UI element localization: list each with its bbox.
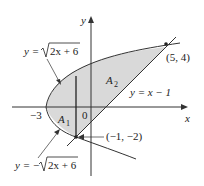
x-axis-label: x — [184, 112, 190, 124]
line-label: y = x − 1 — [129, 86, 171, 98]
svg-text:2x + 6: 2x + 6 — [50, 45, 79, 57]
svg-text:A: A — [105, 74, 113, 86]
point-5-4-label: (5, 4) — [166, 51, 190, 64]
y-axis-label: y — [80, 14, 86, 26]
svg-text:2: 2 — [114, 80, 118, 89]
point-neg1-neg2-label: (−1, −2) — [106, 130, 143, 143]
svg-text:2x + 6: 2x + 6 — [48, 159, 77, 171]
svg-text:y = −: y = − — [14, 159, 40, 171]
svg-text:1: 1 — [66, 119, 70, 128]
y-axis-arrow-icon — [88, 16, 94, 23]
x-tick-neg3-label: −3 — [30, 109, 42, 121]
svg-text:y =: y = — [23, 45, 39, 57]
svg-text:A: A — [57, 113, 65, 125]
point-5-4 — [164, 42, 168, 46]
leader-lower-parabola — [38, 132, 58, 158]
leader-upper-parabola — [47, 59, 60, 83]
x-axis-arrow-icon — [181, 104, 188, 110]
point-neg1-neg2 — [74, 135, 78, 139]
origin-label: 0 — [82, 109, 88, 121]
lower-parabola-label: y = − 2x + 6 — [14, 157, 78, 171]
region-diagram: y x 0 −3 y = 2x + 6 y = − 2x + 6 y = x −… — [0, 0, 204, 186]
upper-parabola-label: y = 2x + 6 — [23, 43, 80, 57]
leader-lower-arrow-icon — [54, 129, 60, 135]
